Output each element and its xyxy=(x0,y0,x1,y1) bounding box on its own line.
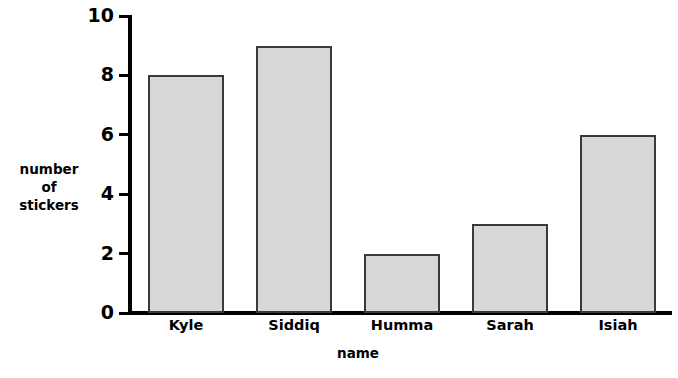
bar-sarah xyxy=(472,224,548,313)
x-label-isiah: Isiah xyxy=(564,318,672,334)
y-tick-6 xyxy=(119,133,129,136)
y-tick-label-text: 6 xyxy=(82,125,114,144)
y-tick-label-text: 2 xyxy=(82,244,114,263)
y-tick-label-2: 2 xyxy=(78,244,114,264)
bar-chart: number of stickers 0246810 KyleSiddiqHum… xyxy=(0,0,678,378)
y-tick-8 xyxy=(119,74,129,77)
x-label-siddiq: Siddiq xyxy=(240,318,348,334)
bar-isiah xyxy=(580,135,656,313)
y-tick-label-text: 8 xyxy=(82,65,114,84)
y-tick-label-6: 6 xyxy=(78,125,114,145)
y-tick-label-8: 8 xyxy=(78,65,114,85)
y-tick-label-0: 0 xyxy=(78,303,114,323)
x-label-humma: Humma xyxy=(348,318,456,334)
bar-kyle xyxy=(148,75,224,313)
y-axis-title-line-1: number xyxy=(4,160,94,178)
bar-siddiq xyxy=(256,46,332,313)
bar-humma xyxy=(364,254,440,313)
y-tick-label-10: 10 xyxy=(78,6,114,26)
y-tick-label-text: 4 xyxy=(82,184,114,203)
y-tick-10 xyxy=(119,15,129,18)
x-axis-title: name xyxy=(0,345,678,361)
y-axis-line xyxy=(128,15,132,315)
y-tick-label-text: 10 xyxy=(82,6,114,25)
y-tick-2 xyxy=(119,252,129,255)
y-tick-0 xyxy=(119,312,129,315)
y-tick-4 xyxy=(119,193,129,196)
y-tick-label-4: 4 xyxy=(78,184,114,204)
y-tick-label-text: 0 xyxy=(82,303,114,322)
x-label-kyle: Kyle xyxy=(132,318,240,334)
x-label-sarah: Sarah xyxy=(456,318,564,334)
